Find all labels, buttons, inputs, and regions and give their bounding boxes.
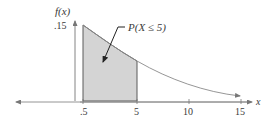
y-axis-label: f(x) xyxy=(55,5,71,18)
annotation-label: P(X ≤ 5) xyxy=(127,21,166,34)
shaded-probability-region xyxy=(83,25,137,101)
x-tick-label-05: .5 xyxy=(80,106,88,117)
x-tick-label-10: 10 xyxy=(183,106,193,117)
x-tick-label-5: 5 xyxy=(134,106,139,117)
x-axis-label: x xyxy=(255,96,261,107)
exponential-density-chart: f(x) .15 P(X ≤ 5) .5 5 10 15 x xyxy=(0,0,273,126)
x-tick-label-15: 15 xyxy=(235,106,245,117)
y-tick-label: .15 xyxy=(54,20,67,31)
